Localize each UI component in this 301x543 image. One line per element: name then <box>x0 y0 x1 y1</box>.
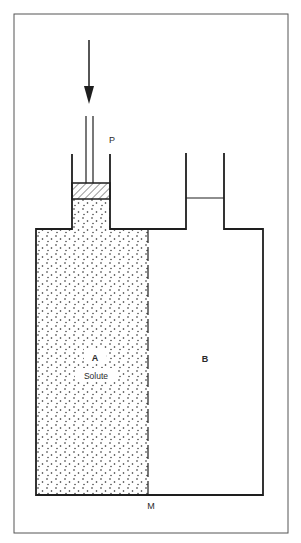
osmosis-diagram: P A Solute B M <box>0 0 301 543</box>
vessel-top-middle <box>110 153 186 229</box>
piston <box>72 183 110 199</box>
label-membrane: M <box>147 501 155 511</box>
label-solute: Solute <box>84 371 108 381</box>
arrow-head-icon <box>84 86 94 104</box>
compartment-a <box>36 199 148 495</box>
label-compartment-a: A <box>92 353 99 363</box>
label-piston: P <box>109 135 115 145</box>
label-compartment-b: B <box>202 354 209 364</box>
